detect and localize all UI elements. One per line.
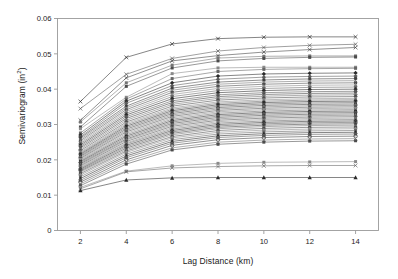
- y-tick-label: 0.05: [37, 50, 52, 59]
- x-tick-label: 12: [305, 237, 313, 246]
- y-tick-label: 0.01: [37, 191, 52, 200]
- x-tick-label: 10: [260, 237, 268, 246]
- x-tick-label: 2: [78, 237, 82, 246]
- y-tick-label: 0.03: [37, 120, 52, 129]
- y-axis-title-tail: ): [17, 67, 27, 70]
- y-axis-title-exponent: 2: [15, 70, 22, 74]
- chart-canvas: 00.010.020.030.040.050.06 2468101214: [0, 0, 398, 279]
- semivariogram-figure: 00.010.020.030.040.050.06 2468101214 Sem…: [0, 0, 398, 279]
- y-tick-label: 0: [47, 226, 51, 235]
- figure-background: [0, 0, 398, 279]
- y-tick-label: 0.06: [37, 14, 52, 23]
- x-tick-label: 4: [124, 237, 128, 246]
- y-axis-title: Semivariogram (in2): [15, 31, 27, 181]
- x-tick-label: 14: [351, 237, 359, 246]
- y-axis-title-text: Semivariogram (in: [17, 74, 27, 145]
- y-tick-label: 0.04: [37, 85, 52, 94]
- y-tick-label: 0.02: [37, 156, 52, 165]
- x-tick-label: 8: [216, 237, 220, 246]
- x-axis-title: Lag Distance (km): [57, 256, 379, 266]
- x-tick-label: 6: [170, 237, 174, 246]
